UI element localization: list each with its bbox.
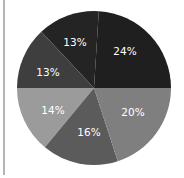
- slice-label: 13%: [63, 36, 86, 48]
- slice-label: 24%: [113, 45, 136, 57]
- slice-label: 16%: [77, 126, 100, 138]
- slice-label: 13%: [36, 66, 59, 78]
- pie-chart: 24%13%13%14%16%20%: [0, 0, 184, 178]
- slice-label: 14%: [41, 104, 64, 116]
- slice-label: 20%: [121, 106, 144, 118]
